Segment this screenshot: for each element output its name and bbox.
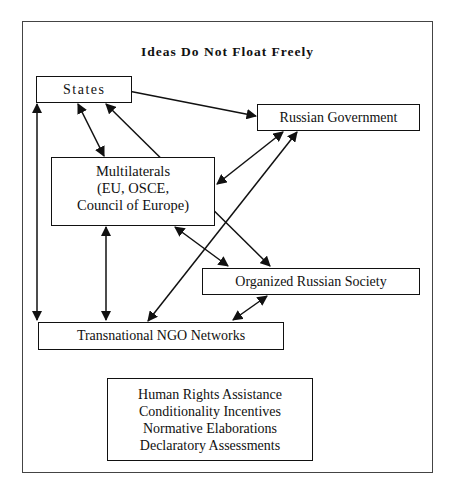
edge-multilaterals-russian-government bbox=[217, 132, 283, 184]
node-multilaterals: Multilaterals (EU, OSCE, Council of Euro… bbox=[51, 157, 215, 226]
node-states: States bbox=[36, 76, 132, 103]
node-states-label: States bbox=[63, 82, 105, 98]
node-russian-government: Russian Government bbox=[257, 104, 420, 131]
node-multilaterals-line-2: (EU, OSCE, bbox=[97, 180, 169, 197]
instrument-human-rights-assistance: Human Rights Assistance bbox=[138, 386, 282, 403]
edge-multilaterals-organized-russian-society bbox=[175, 227, 228, 266]
edge-organized-russian-society-ngo bbox=[233, 296, 267, 320]
instruments-box: Human Rights Assistance Conditionality I… bbox=[107, 378, 313, 461]
node-multilaterals-line-1: Multilaterals bbox=[96, 163, 170, 180]
node-transnational-ngo-networks: Transnational NGO Networks bbox=[38, 322, 284, 350]
node-organized-russian-society: Organized Russian Society bbox=[202, 268, 420, 295]
node-transnational-ngo-networks-label: Transnational NGO Networks bbox=[77, 328, 245, 344]
node-russian-government-label: Russian Government bbox=[280, 110, 398, 126]
node-multilaterals-line-3: Council of Europe) bbox=[77, 197, 189, 214]
node-organized-russian-society-label: Organized Russian Society bbox=[235, 274, 386, 290]
instrument-declaratory-assessments: Declaratory Assessments bbox=[140, 437, 280, 454]
instrument-conditionality-incentives: Conditionality Incentives bbox=[139, 403, 281, 420]
instrument-normative-elaborations: Normative Elaborations bbox=[143, 420, 277, 437]
edge-states-multilaterals bbox=[78, 104, 104, 156]
